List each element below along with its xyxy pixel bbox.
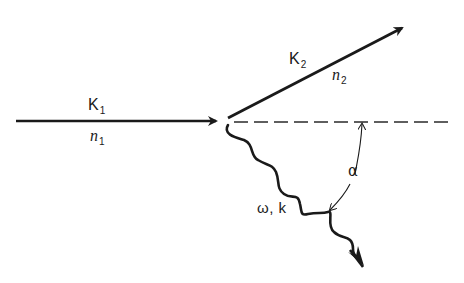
angle-alpha-label: α (348, 164, 358, 179)
diagram-canvas: K1 n1 K2 n2 ω, k α (0, 0, 464, 283)
scattered-wave-symbol: K (289, 50, 300, 67)
incident-medium-label: n1 (90, 128, 105, 144)
emitted-wave-wavy-arrow (227, 125, 364, 267)
scattered-wave-subscript: 2 (301, 59, 307, 70)
incident-wave-symbol: K (88, 96, 99, 113)
incident-wave-subscript: 1 (100, 105, 106, 116)
incident-wave-label: K1 (88, 97, 105, 113)
scattered-medium-symbol: n (332, 66, 340, 83)
emitted-wave-label: ω, k (257, 200, 287, 215)
incident-medium-subscript: 1 (99, 136, 105, 147)
scattered-wave-label: K2 (289, 51, 306, 67)
scattered-medium-subscript: 2 (341, 75, 347, 86)
incident-medium-symbol: n (90, 127, 98, 144)
scattered-wave-arrow (228, 28, 402, 118)
scattered-medium-label: n2 (332, 67, 347, 83)
